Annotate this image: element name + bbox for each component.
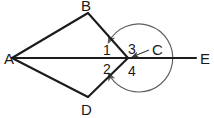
vertex-label-e: E <box>200 50 210 67</box>
angle-label-3: 3 <box>128 41 136 57</box>
vertex-label-a: A <box>4 50 14 67</box>
segment-da <box>12 58 88 97</box>
geometry-canvas: A B C D E 1 2 3 4 <box>0 0 214 118</box>
angle-label-4: 4 <box>128 63 136 79</box>
segment-ab <box>12 13 88 58</box>
angle-label-1: 1 <box>103 42 111 58</box>
vertex-label-b: B <box>81 0 91 14</box>
angle-label-2: 2 <box>103 61 111 77</box>
geometry-figure: A B C D E 1 2 3 4 <box>0 0 214 118</box>
vertex-label-d: D <box>81 101 92 118</box>
vertex-label-c: C <box>152 41 163 58</box>
